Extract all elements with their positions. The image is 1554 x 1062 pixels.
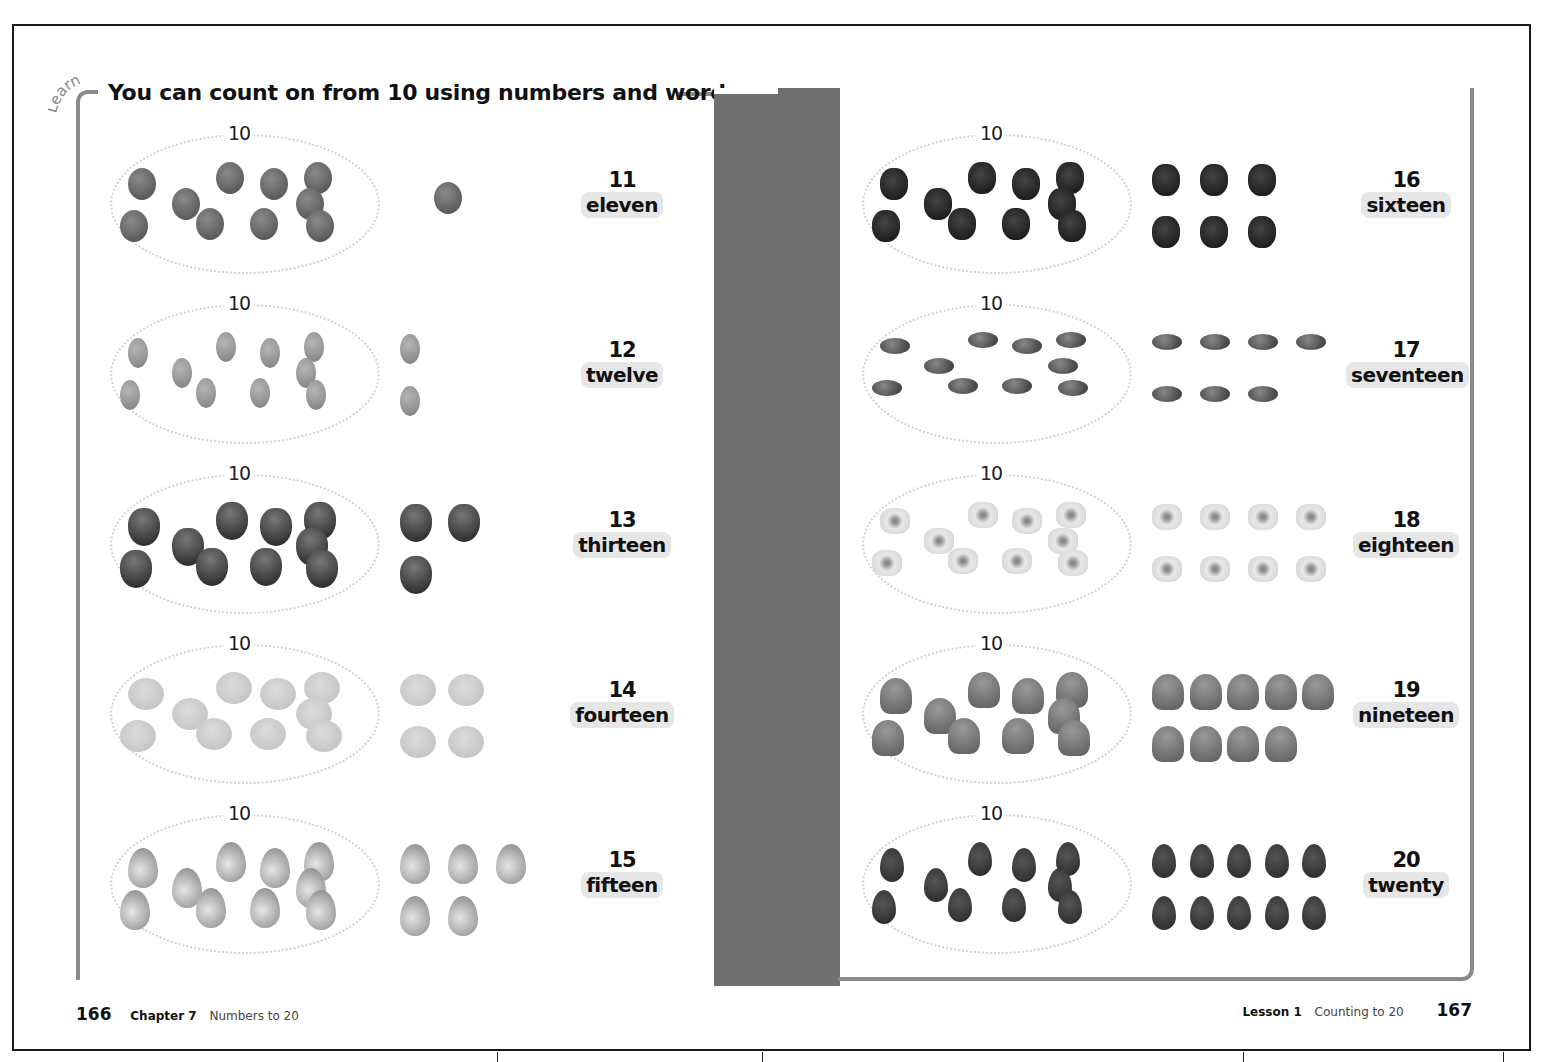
chapter-title: Numbers to 20 (209, 1009, 298, 1023)
ten-group-oval (862, 644, 1132, 784)
grape-icon (128, 168, 156, 200)
strawberry-icon (1002, 888, 1026, 922)
strawberry-icon (1227, 896, 1251, 930)
strawberry-icon (968, 842, 992, 876)
apple-icon (260, 508, 292, 546)
number-word: seventeen (1346, 362, 1469, 388)
apple-icon (306, 550, 338, 588)
mushroom-icon (1152, 674, 1184, 710)
number-numeral: 20 (1346, 848, 1466, 872)
counting-row: 1011eleven (100, 118, 710, 288)
blackberry-icon (880, 168, 908, 200)
popcorn-icon (1200, 556, 1230, 582)
lesson-label: Lesson 1 (1242, 1005, 1301, 1019)
kidney-bean-icon (1152, 334, 1182, 350)
ten-group-oval (110, 644, 380, 784)
blackberry-icon (1058, 210, 1086, 242)
ten-group-oval (110, 134, 380, 274)
grape-icon (120, 210, 148, 242)
kidney-bean-icon (1248, 334, 1278, 350)
grape-icon (260, 168, 288, 200)
bean-icon (196, 378, 216, 408)
number-numeral: 13 (562, 508, 682, 532)
kidney-bean-icon (924, 358, 954, 374)
mushroom-icon (948, 718, 980, 754)
ten-label: 10 (976, 632, 1006, 654)
kidney-bean-icon (1152, 386, 1182, 402)
number-label: 17seventeen (1346, 338, 1466, 388)
mushroom-icon (1058, 720, 1090, 756)
blackberry-icon (1248, 216, 1276, 248)
counting-row: 1012twelve (100, 288, 710, 458)
blackberry-icon (872, 210, 900, 242)
popcorn-icon (968, 502, 998, 528)
strawberry-icon (1190, 844, 1214, 878)
bean-icon (128, 338, 148, 368)
kidney-bean-icon (1296, 334, 1326, 350)
strawberry-icon (872, 890, 896, 924)
strawberry-icon (1190, 896, 1214, 930)
kidney-bean-icon (1248, 386, 1278, 402)
number-word: sixteen (1361, 192, 1450, 218)
ten-group-oval (110, 304, 380, 444)
number-word: eleven (581, 192, 663, 218)
counting-row: 1019nineteen (852, 628, 1462, 798)
blackberry-icon (1012, 168, 1040, 200)
lemon-icon (120, 720, 156, 752)
kidney-bean-icon (1002, 378, 1032, 394)
bean-icon (172, 358, 192, 388)
kidney-bean-icon (1048, 358, 1078, 374)
popcorn-icon (1056, 502, 1086, 528)
popcorn-icon (1296, 556, 1326, 582)
strawberry-icon (880, 848, 904, 882)
number-numeral: 18 (1346, 508, 1466, 532)
number-label: 15fifteen (562, 848, 682, 898)
mushroom-icon (1190, 674, 1222, 710)
counting-row: 1014fourteen (100, 628, 710, 798)
ten-label: 10 (976, 802, 1006, 824)
grape-icon (196, 208, 224, 240)
blackberry-icon (1152, 216, 1180, 248)
mushroom-icon (1152, 726, 1184, 762)
ten-label: 10 (224, 292, 254, 314)
number-word: twelve (581, 362, 663, 388)
blackberry-icon (1200, 216, 1228, 248)
kidney-bean-icon (968, 332, 998, 348)
pear-icon (448, 844, 478, 884)
lesson-title: Counting to 20 (1315, 1005, 1404, 1019)
ten-label: 10 (976, 292, 1006, 314)
blackberry-icon (968, 162, 996, 194)
grape-icon (434, 182, 462, 214)
number-word: thirteen (573, 532, 670, 558)
strawberry-icon (1302, 896, 1326, 930)
page-number: 167 (1437, 1000, 1473, 1020)
bean-icon (400, 334, 420, 364)
popcorn-icon (1248, 556, 1278, 582)
ten-group-oval (862, 814, 1132, 954)
lemon-icon (400, 726, 436, 758)
lemon-icon (250, 718, 286, 750)
strawberry-icon (1058, 890, 1082, 924)
grape-icon (250, 208, 278, 240)
number-word: eighteen (1353, 532, 1459, 558)
popcorn-icon (1002, 548, 1032, 574)
counting-row: 1020twenty (852, 798, 1462, 968)
number-label: 13thirteen (562, 508, 682, 558)
number-label: 19nineteen (1346, 678, 1466, 728)
popcorn-icon (948, 548, 978, 574)
mushroom-icon (1265, 674, 1297, 710)
apple-icon (120, 550, 152, 588)
footer-right: Lesson 1 Counting to 20 167 (1242, 1000, 1472, 1020)
popcorn-icon (1248, 504, 1278, 530)
bracket-cap (1466, 60, 1470, 90)
number-word: fifteen (581, 872, 663, 898)
blackberry-icon (1200, 164, 1228, 196)
pear-icon (496, 844, 526, 884)
kidney-bean-icon (1200, 334, 1230, 350)
lemon-icon (448, 726, 484, 758)
strawberry-icon (1302, 844, 1326, 878)
counting-row: 1016sixteen (852, 118, 1462, 288)
number-numeral: 16 (1346, 168, 1466, 192)
strawberry-icon (948, 888, 972, 922)
bean-icon (120, 380, 140, 410)
